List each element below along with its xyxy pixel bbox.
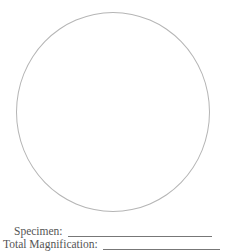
specimen-blank-line[interactable] <box>68 236 212 237</box>
specimen-label: Specimen: <box>14 225 63 237</box>
specimen-field: Specimen: <box>14 225 63 237</box>
total-magnification-label: Total Magnification: <box>3 238 98 250</box>
microscope-field-of-view-circle <box>16 12 210 212</box>
total-magnification-field: Total Magnification: <box>3 238 98 250</box>
total-magnification-blank-line[interactable] <box>103 249 220 250</box>
